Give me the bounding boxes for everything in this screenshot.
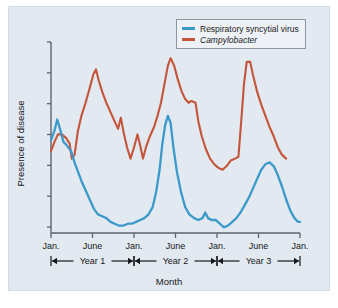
year-bracket-arrow — [211, 258, 216, 264]
year-bracket-arrow — [218, 258, 223, 264]
series-line-rsv — [51, 116, 300, 228]
year-bracket-label: Year 2 — [161, 256, 191, 266]
year-bracket-label: Year 3 — [244, 256, 274, 266]
legend-item-rsv: Respiratory syncytial virus — [182, 23, 299, 34]
chart-legend: Respiratory syncytial virus Campylobacte… — [176, 19, 306, 49]
year-bracket-label: Year 1 — [78, 256, 108, 266]
x-axis-tick-label: Jan. — [42, 241, 59, 251]
legend-label-campylobacter: Campylobacter — [200, 35, 257, 45]
legend-swatch-rsv — [182, 27, 195, 30]
x-axis-title: Month — [0, 276, 338, 287]
series-line-campylobacter — [51, 58, 286, 170]
legend-swatch-campylobacter — [182, 38, 195, 41]
x-axis-tick-label: Jan. — [125, 241, 142, 251]
legend-item-campylobacter: Campylobacter — [182, 34, 299, 45]
x-axis-tick-label: Jan. — [208, 241, 225, 251]
x-axis-ticks — [51, 233, 300, 238]
y-axis-title: Presence of disease — [15, 79, 26, 209]
x-axis-tick-label: Jan. — [291, 241, 308, 251]
x-axis-tick-label: June — [249, 241, 269, 251]
year-bracket-arrow — [294, 258, 299, 264]
x-axis-tick-label: June — [83, 241, 103, 251]
legend-label-rsv: Respiratory syncytial virus — [200, 24, 299, 34]
x-axis-tick-label: June — [166, 241, 186, 251]
chart-figure: Respiratory syncytial virus Campylobacte… — [0, 0, 338, 308]
year-bracket-arrow — [52, 258, 57, 264]
year-bracket-arrow — [135, 258, 140, 264]
year-bracket-arrow — [128, 258, 133, 264]
